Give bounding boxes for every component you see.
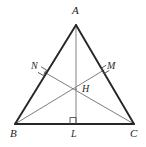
label-vertex-C: C — [130, 128, 137, 139]
segment-side-AB — [15, 25, 76, 124]
label-point-L: L — [71, 129, 77, 139]
label-vertex-A: A — [72, 5, 79, 16]
label-point-M: M — [107, 61, 115, 71]
segment-side-AC — [76, 25, 134, 124]
right-angle-at-L-icon — [70, 118, 76, 125]
orthocenter-point — [75, 88, 76, 89]
label-point-H: H — [82, 84, 89, 94]
segment-cevian-BM — [15, 70, 104, 124]
label-point-N: N — [31, 61, 38, 71]
geometry-canvas — [0, 0, 146, 147]
label-vertex-B: B — [10, 128, 17, 139]
geometry-figure: A B C L M N H — [0, 0, 146, 147]
